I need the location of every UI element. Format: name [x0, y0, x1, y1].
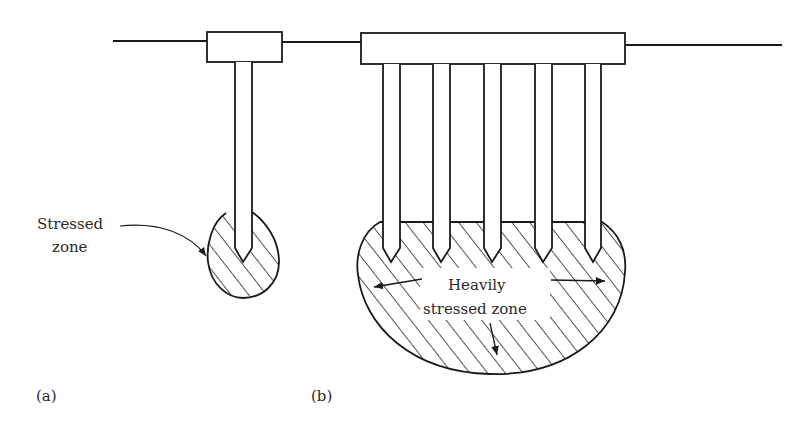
stressed-zone-label-1: Stressed	[37, 215, 104, 233]
single-pile-cap	[207, 32, 282, 62]
heavily-stressed-label-2: stressed zone	[423, 300, 527, 318]
group-pile-cap	[361, 33, 625, 64]
stressed-zone-label-2: zone	[52, 238, 88, 256]
pile-5	[585, 64, 601, 262]
pile-4	[535, 64, 552, 262]
pile-group	[357, 33, 625, 374]
panel-b-label: (b)	[311, 387, 332, 405]
single-pile	[235, 62, 252, 262]
pile-2	[433, 64, 450, 262]
pile-1	[383, 64, 400, 262]
pile-3	[484, 64, 501, 262]
panel-a-label: (a)	[36, 387, 57, 405]
single-pile-group	[120, 32, 282, 298]
stressed-zone-arrow	[120, 225, 206, 256]
pile-group-diagram: Stressed zone Heavily stressed zone (a) …	[0, 0, 812, 426]
heavily-stressed-label-1: Heavily	[448, 276, 506, 294]
